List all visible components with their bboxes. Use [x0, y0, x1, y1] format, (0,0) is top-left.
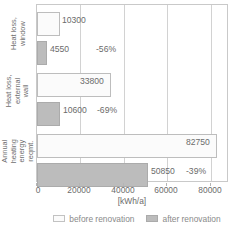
legend-label-after: after renovation [162, 214, 220, 224]
category-label-annual-heating-energy: Annual heating energy reqmt. [0, 120, 36, 182]
plot-area [36, 4, 228, 182]
tick-label-40000: 40000 [111, 185, 134, 195]
category-label-text: Annual heating energy reqmt. [1, 133, 35, 169]
value-label-after-heat-loss-window: 4550 [50, 44, 69, 54]
legend-item-before[interactable]: before renovation [53, 214, 134, 224]
percent-label-heat-loss-external-wall: -69% [97, 105, 117, 115]
bar-chart: Heat loss, window Heat loss, external wa… [0, 0, 238, 225]
category-label-heat-loss-window: Heat loss, window [0, 8, 36, 60]
tick-label-60000: 60000 [154, 185, 177, 195]
category-axis: Heat loss, window Heat loss, external wa… [0, 0, 36, 183]
value-label-before-heat-loss-window: 10300 [62, 15, 86, 25]
category-label-text: Heat loss, window [9, 18, 26, 51]
value-label-after-annual-heating-energy: 50850 [151, 166, 175, 176]
tick-label-20000: 20000 [67, 185, 90, 195]
legend-label-before: before renovation [69, 214, 134, 224]
x-axis-title: [kWh/a] [36, 196, 228, 206]
value-label-before-heat-loss-external-wall: 33800 [80, 76, 104, 86]
bar-after-annual-heating-energy [37, 163, 148, 187]
bar-after-heat-loss-external-wall [37, 102, 60, 126]
bar-before-heat-loss-window [37, 12, 60, 36]
bar-after-heat-loss-window [37, 41, 47, 65]
percent-label-annual-heating-energy: -39% [186, 166, 206, 176]
tick-label-0: 0 [36, 185, 41, 195]
value-label-before-annual-heating-energy: 82750 [186, 137, 210, 147]
legend-swatch-after-icon [146, 215, 158, 222]
tick-label-80000: 80000 [198, 185, 221, 195]
category-label-text: Heat loss, external wall [5, 73, 31, 109]
category-label-heat-loss-external-wall: Heat loss, external wall [0, 64, 36, 118]
percent-label-heat-loss-window: -56% [96, 44, 116, 54]
chart-legend: before renovation after renovation [36, 214, 238, 224]
legend-swatch-before-icon [53, 215, 65, 222]
legend-item-after[interactable]: after renovation [146, 214, 220, 224]
value-label-after-heat-loss-external-wall: 10600 [63, 105, 87, 115]
